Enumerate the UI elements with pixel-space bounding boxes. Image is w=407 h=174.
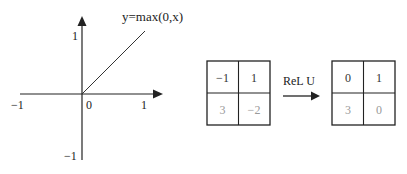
operation-label: ReL U xyxy=(283,74,315,88)
relu-diagram: y=max(0,x) 1 −1 −1 0 1 −1 1 3 −2 ReL U 0… xyxy=(0,0,407,174)
x-tick-pos: 1 xyxy=(141,98,147,112)
input-cell-3: −2 xyxy=(248,103,261,117)
output-matrix: 0 1 3 0 xyxy=(332,61,395,125)
x-tick-neg: −1 xyxy=(11,98,24,112)
output-cell-3: 0 xyxy=(376,103,382,117)
relu-operation: ReL U xyxy=(283,74,320,101)
y-tick-pos: 1 xyxy=(72,29,78,43)
output-cell-0: 0 xyxy=(345,71,351,85)
output-cell-1: 1 xyxy=(376,71,382,85)
input-matrix: −1 1 3 −2 xyxy=(207,61,270,125)
x-tick-zero: 0 xyxy=(86,98,92,112)
y-axis-arrow-icon xyxy=(78,16,87,26)
operation-arrow-icon xyxy=(311,92,320,101)
function-label: y=max(0,x) xyxy=(122,9,183,24)
relu-line xyxy=(82,31,145,94)
y-tick-neg: −1 xyxy=(64,149,77,163)
relu-graph: y=max(0,x) 1 −1 −1 0 1 xyxy=(11,9,183,163)
input-cell-1: 1 xyxy=(251,71,257,85)
input-cell-2: 3 xyxy=(220,103,226,117)
input-cell-0: −1 xyxy=(216,71,229,85)
output-cell-2: 3 xyxy=(345,103,351,117)
x-axis-arrow-icon xyxy=(153,90,163,99)
